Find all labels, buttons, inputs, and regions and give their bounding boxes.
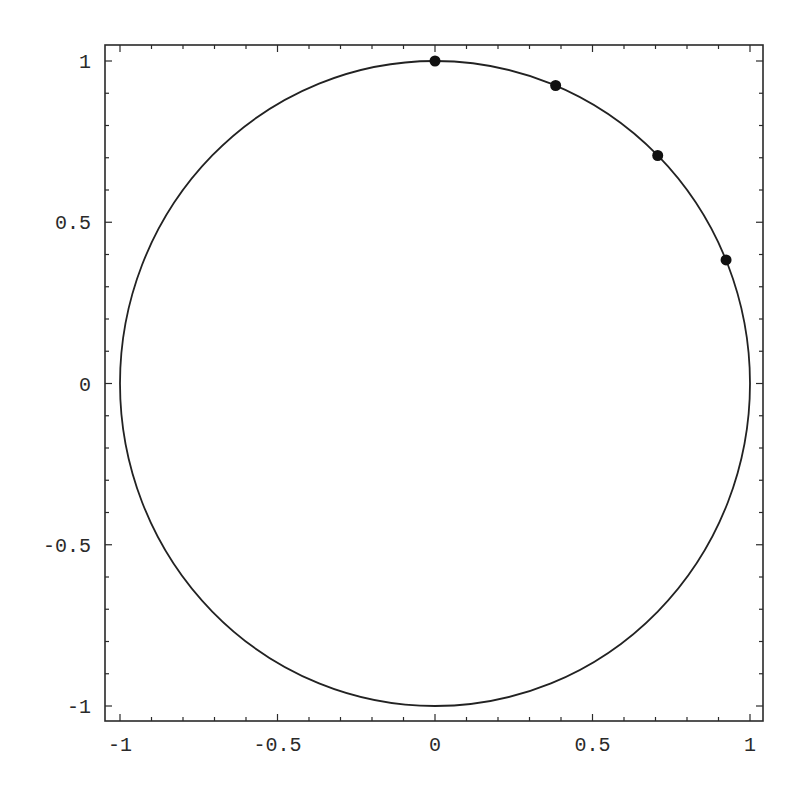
data-point — [550, 80, 561, 91]
x-tick-label: -0.5 — [253, 734, 301, 757]
plot-frame — [105, 45, 763, 721]
x-tick-label: 0.5 — [574, 734, 610, 757]
data-point — [652, 150, 663, 161]
y-tick-label: -0.5 — [43, 535, 91, 558]
y-tick-label: 1 — [79, 51, 91, 74]
frame-rect — [105, 45, 763, 721]
data-point — [430, 56, 441, 67]
x-tick-label: 0 — [429, 734, 441, 757]
x-axis-tick-labels: -1-0.500.51 — [108, 734, 756, 757]
x-tick-label: -1 — [108, 734, 132, 757]
chart: -1-0.500.51 10.50-0.5-1 — [0, 0, 805, 792]
data-point — [721, 254, 732, 265]
x-tick-label: 1 — [744, 734, 756, 757]
y-axis-tick-labels: 10.50-0.5-1 — [43, 51, 91, 719]
y-tick-label: 0.5 — [55, 212, 91, 235]
data-points — [430, 56, 732, 266]
axis-ticks — [105, 45, 763, 721]
y-tick-label: 0 — [79, 374, 91, 397]
y-tick-label: -1 — [67, 696, 91, 719]
plot-area: -1-0.500.51 10.50-0.5-1 — [0, 0, 805, 792]
